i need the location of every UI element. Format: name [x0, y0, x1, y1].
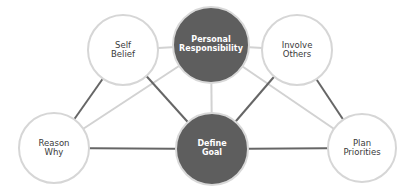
node-self-belief: Self Belief — [87, 14, 159, 86]
node-label-line2: Belief — [111, 50, 135, 59]
node-label-line2: Goal — [197, 149, 226, 158]
node-personal-responsibility: Personal Responsibility — [172, 6, 250, 84]
node-label-line2: Responsibility — [179, 45, 243, 54]
node-reason-why: Reason Why — [18, 112, 90, 184]
node-label-line2: Why — [39, 148, 70, 157]
node-define-goal: Define Goal — [175, 112, 249, 186]
node-label-line2: Others — [282, 50, 313, 59]
node-plan-priorities: Plan Priorities — [327, 113, 397, 183]
node-involve-others: Involve Others — [261, 14, 333, 86]
node-label-line2: Priorities — [343, 148, 380, 157]
goal-diagram: Self Belief Personal Responsibility Invo… — [0, 0, 417, 195]
